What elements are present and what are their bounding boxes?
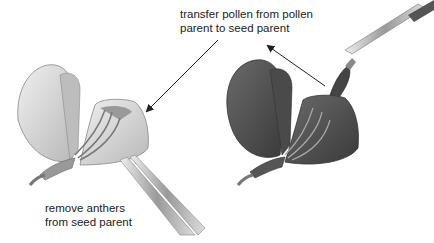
label-line: remove anthers bbox=[45, 201, 132, 215]
label-line: transfer pollen from pollen bbox=[180, 7, 313, 21]
label-line: parent to seed parent bbox=[180, 21, 313, 35]
arrow-to-left-flower bbox=[147, 40, 218, 111]
remove-anthers-label: remove anthers from seed parent bbox=[45, 201, 132, 229]
label-line: from seed parent bbox=[45, 215, 132, 229]
tweezers bbox=[120, 155, 205, 235]
paintbrush bbox=[330, 0, 434, 96]
transfer-pollen-label: transfer pollen from pollen parent to se… bbox=[180, 7, 313, 35]
